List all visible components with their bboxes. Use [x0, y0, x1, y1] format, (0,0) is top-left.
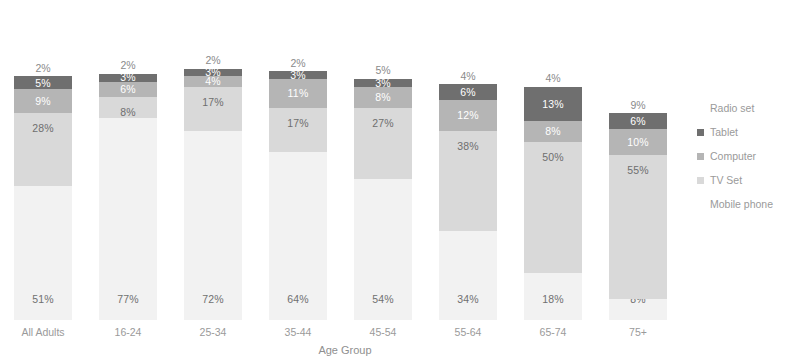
segment-value-label: 54%	[372, 294, 394, 305]
bar-segment-mobile: 18%	[524, 273, 582, 320]
segment-value-label: 51%	[32, 294, 54, 305]
segment-value-label: 64%	[287, 294, 309, 305]
bar-segment-computer: 12%	[439, 100, 497, 131]
bar-segment-mobile: 72%	[184, 131, 242, 320]
legend-label: Tablet	[710, 126, 738, 138]
segment-value-label: 12%	[457, 110, 479, 121]
segment-value-label: 6%	[460, 87, 476, 98]
bar-segment-tablet: 3%	[184, 69, 242, 77]
segment-value-label: 27%	[372, 118, 394, 129]
x-tick-label: 65-74	[508, 326, 598, 338]
bar-segment-computer: 9%	[14, 89, 72, 113]
legend-swatch-tvset	[697, 177, 704, 184]
bar-segment-tvset: 50%	[524, 142, 582, 273]
x-tick-label: 16-24	[83, 326, 173, 338]
bar-segment-mobile: 54%	[354, 179, 412, 320]
legend-label: Mobile phone	[710, 198, 773, 210]
segment-value-label: 8%	[545, 126, 561, 137]
segment-value-label: 18%	[542, 294, 564, 305]
bar-column: 18%50%8%13%4%	[524, 87, 582, 320]
stacked-bar-chart: 51%28%9%5%2%77%8%6%3%2%72%17%4%3%2%64%17…	[0, 0, 797, 361]
segment-value-label: 3%	[290, 71, 306, 79]
x-axis-title: Age Group	[0, 344, 690, 356]
segment-value-label: 8%	[120, 107, 136, 118]
bar-segment-mobile: 34%	[439, 231, 497, 320]
segment-value-label: 77%	[117, 294, 139, 305]
legend-item[interactable]: TV Set	[697, 168, 797, 192]
segment-value-label: 38%	[457, 141, 479, 152]
bar-segment-tvset: 27%	[354, 108, 412, 179]
segment-value-label: 10%	[627, 137, 649, 148]
bar-column: 64%17%11%3%2%	[269, 71, 327, 320]
legend-item[interactable]: Computer	[697, 144, 797, 168]
bar-stack: 34%38%12%6%	[439, 84, 497, 320]
bar-segment-tvset: 17%	[269, 108, 327, 153]
segment-value-label: 55%	[627, 165, 649, 176]
bar-segment-radio-label: 4%	[524, 73, 582, 84]
segment-value-label: 50%	[542, 152, 564, 163]
bar-stack: 64%17%11%3%	[269, 71, 327, 320]
bar-segment-computer: 4%	[184, 76, 242, 86]
x-tick-label: All Adults	[0, 326, 88, 338]
bar-segment-computer: 11%	[269, 79, 327, 108]
x-tick-label: 55-64	[423, 326, 513, 338]
legend-item[interactable]: Tablet	[697, 120, 797, 144]
bar-stack: 77%8%6%3%	[99, 74, 157, 320]
legend-label: Radio set	[710, 102, 754, 114]
segment-value-label: 17%	[202, 97, 224, 108]
segment-value-label: 6%	[630, 116, 646, 127]
segment-value-label: 17%	[287, 118, 309, 129]
segment-value-label: 13%	[542, 99, 564, 110]
bar-stack: 8%55%10%6%	[609, 113, 667, 320]
bar-segment-tvset: 38%	[439, 131, 497, 231]
bar-segment-radio-label: 2%	[99, 60, 157, 71]
segment-value-label: 3%	[205, 69, 221, 77]
bar-segment-radio-label: 2%	[14, 63, 72, 74]
bar-segment-computer: 6%	[99, 82, 157, 98]
legend-label: TV Set	[710, 174, 742, 186]
bar-stack: 54%27%8%3%	[354, 79, 412, 320]
bar-segment-tvset: 17%	[184, 87, 242, 132]
segment-value-label: 6%	[120, 84, 136, 95]
bar-segment-radio-label: 4%	[439, 71, 497, 82]
bar-segment-computer: 8%	[354, 87, 412, 108]
bar-column: 34%38%12%6%4%	[439, 84, 497, 320]
segment-value-label: 4%	[205, 76, 221, 86]
segment-value-label: 28%	[32, 123, 54, 134]
segment-value-label: 9%	[35, 96, 51, 107]
x-tick-label: 75+	[593, 326, 683, 338]
bar-segment-mobile: 8%	[609, 299, 667, 320]
bar-segment-computer: 10%	[609, 129, 667, 155]
segment-value-label: 11%	[288, 88, 309, 99]
legend-swatch-computer	[697, 153, 704, 160]
bar-column: 72%17%4%3%2%	[184, 68, 242, 320]
bar-stack: 72%17%4%3%	[184, 69, 242, 320]
bar-segment-mobile: 51%	[14, 186, 72, 320]
legend-item[interactable]: Mobile phone	[697, 192, 797, 216]
x-tick-label: 35-44	[253, 326, 343, 338]
bar-segment-tvset: 8%	[99, 97, 157, 118]
bar-segment-tablet: 13%	[524, 87, 582, 121]
bar-segment-tablet: 3%	[99, 74, 157, 82]
bar-segment-tablet: 3%	[269, 71, 327, 79]
legend-swatch-tablet	[697, 129, 704, 136]
segment-value-label: 3%	[120, 74, 136, 82]
bar-segment-tablet: 6%	[439, 84, 497, 100]
bar-segment-radio-label: 9%	[609, 100, 667, 111]
legend-label: Computer	[710, 150, 756, 162]
x-tick-label: 45-54	[338, 326, 428, 338]
legend-item[interactable]: Radio set	[697, 96, 797, 120]
bar-segment-tablet: 5%	[14, 76, 72, 89]
segment-value-label: 8%	[630, 299, 646, 304]
segment-value-label: 72%	[202, 294, 224, 305]
chart-legend: Radio setTabletComputerTV SetMobile phon…	[697, 96, 797, 216]
bar-stack: 18%50%8%13%	[524, 87, 582, 320]
bar-segment-tablet: 6%	[609, 113, 667, 129]
bar-segment-mobile: 77%	[99, 118, 157, 320]
segment-value-label: 8%	[375, 92, 391, 103]
bar-segment-radio-label: 5%	[354, 65, 412, 76]
bar-column: 8%55%10%6%9%	[609, 113, 667, 320]
bar-column: 54%27%8%3%5%	[354, 79, 412, 320]
segment-value-label: 5%	[35, 78, 51, 89]
x-tick-label: 25-34	[168, 326, 258, 338]
